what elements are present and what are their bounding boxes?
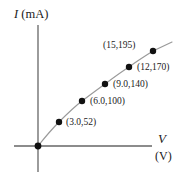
data-point-marker bbox=[79, 98, 85, 104]
y-axis-label: I (mA) bbox=[14, 8, 48, 21]
data-point-marker bbox=[126, 64, 132, 70]
data-point-label-2: (6.0,100) bbox=[90, 97, 125, 107]
data-point-marker bbox=[102, 81, 108, 87]
iv-curve bbox=[38, 42, 172, 146]
data-point-label-4: (12,170) bbox=[137, 63, 169, 73]
x-axis-unit: (V) bbox=[155, 150, 172, 162]
data-point-marker bbox=[56, 119, 62, 125]
data-point-label-1: (3.0,52) bbox=[66, 118, 96, 128]
y-axis-unit: (mA) bbox=[21, 7, 48, 21]
origin-marker bbox=[35, 143, 42, 150]
x-axis-label: V bbox=[158, 132, 166, 145]
data-point-label-5: (15,195) bbox=[103, 41, 135, 51]
data-point-label-3: (9.0,140) bbox=[113, 80, 148, 90]
iv-characteristic-figure: I (mA) V (V) (15,195) (12,170) (9.0,140)… bbox=[0, 0, 183, 175]
data-point-marker bbox=[150, 48, 156, 54]
